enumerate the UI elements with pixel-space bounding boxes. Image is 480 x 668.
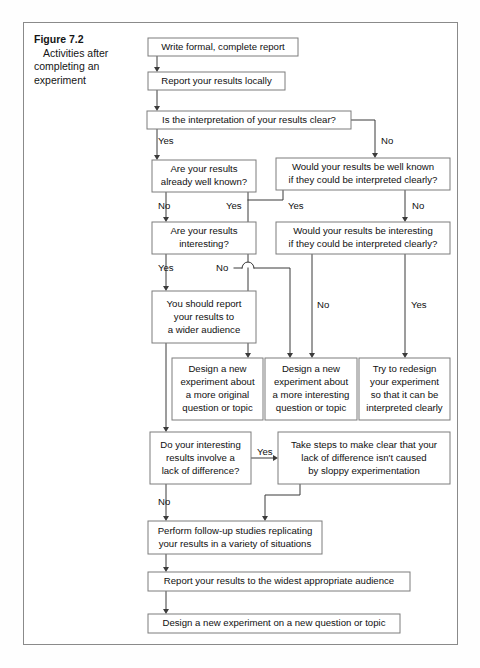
flow-edge-label: Yes — [226, 200, 242, 211]
arrow-head-icon — [163, 609, 169, 614]
arrow-head-icon — [154, 155, 160, 160]
flow-node-label: Design a new — [282, 363, 340, 374]
arrow-head-icon — [309, 353, 315, 358]
arrow-head-icon — [163, 427, 169, 432]
flow-node-label: lack of difference isn't caused — [301, 452, 426, 463]
arrow-head-icon — [163, 516, 169, 521]
arrow-head-icon — [287, 353, 293, 358]
flow-connector — [351, 120, 375, 154]
arrow-head-icon — [273, 455, 278, 461]
flow-edge-label: No — [412, 200, 424, 211]
flow-edge-label: Yes — [158, 135, 174, 146]
flow-node-label: question or topic — [182, 402, 253, 413]
flow-node[interactable]: Design a newexperiment abouta more inter… — [265, 358, 357, 420]
flow-edge-label: Yes — [288, 200, 304, 211]
flow-node[interactable]: Report your results to the widest approp… — [148, 572, 410, 591]
flow-edge-label: No — [317, 299, 329, 310]
flow-node[interactable]: Are your resultsalready well known? — [152, 160, 256, 192]
flow-node-label: so that it can be — [371, 389, 439, 400]
flowchart-canvas: Write formal, complete reportReport your… — [0, 0, 480, 668]
flow-connector — [242, 262, 254, 268]
flow-node[interactable]: Take steps to make clear that yourlack o… — [278, 432, 450, 484]
flow-node-label: already well known? — [161, 176, 247, 187]
arrow-head-icon — [154, 67, 160, 72]
flow-node[interactable]: Would your results be well knownif they … — [276, 158, 450, 190]
flow-node-label: your results to — [174, 311, 234, 322]
flow-node-label: Are your results — [170, 163, 237, 174]
flow-node-label: Is the interpretation of your results cl… — [162, 114, 336, 125]
flow-node-label: interesting? — [179, 238, 229, 249]
flow-edge-label: No — [216, 262, 228, 273]
flow-node-label: Are your results — [170, 225, 237, 236]
flow-node-label: experiment about — [274, 376, 348, 387]
flow-node-label: Would your results be interesting — [293, 225, 433, 236]
flow-node-label: Do your interesting — [160, 439, 241, 450]
arrow-head-icon — [154, 106, 160, 111]
flow-node[interactable]: Would your results be interestingif they… — [276, 222, 450, 254]
flow-node[interactable]: Write formal, complete report — [148, 38, 298, 56]
flow-edge-label: Yes — [257, 446, 273, 457]
flow-edge-label: No — [158, 496, 170, 507]
arrow-head-icon — [163, 217, 169, 222]
flow-node-label: Would your results be well known — [292, 161, 434, 172]
arrow-head-icon — [372, 153, 378, 158]
arrow-head-icon — [262, 516, 268, 521]
flow-node-label: experiment about — [180, 376, 254, 387]
flow-node[interactable]: Is the interpretation of your results cl… — [147, 111, 351, 129]
arrow-head-icon — [402, 217, 408, 222]
flow-node[interactable]: Perform follow-up studies replicatingyou… — [148, 521, 322, 554]
flow-node-label: results involve a — [166, 452, 235, 463]
arrow-head-icon — [402, 353, 408, 358]
arrow-head-icon — [245, 353, 251, 358]
flow-node-label: Try to redesign — [373, 363, 437, 374]
flow-node[interactable]: Design a new experiment on a new questio… — [148, 614, 400, 633]
arrow-head-icon — [163, 567, 169, 572]
flow-node[interactable]: Are your resultsinteresting? — [152, 222, 256, 254]
flow-node-label: a wider audience — [168, 324, 241, 335]
flow-node-label: You should report — [167, 298, 242, 309]
arrow-head-icon — [163, 286, 169, 291]
flow-node[interactable]: Try to redesignyour experimentso that it… — [359, 358, 450, 420]
flow-node-label: Report your results locally — [161, 75, 272, 86]
flow-node-label: if they could be interpreted clearly? — [289, 174, 438, 185]
flow-edge-label: No — [158, 200, 170, 211]
flow-edge-label: Yes — [158, 262, 174, 273]
flow-node-label: a more original — [186, 389, 249, 400]
flow-edge-label: Yes — [411, 299, 427, 310]
flow-edge-label: No — [381, 135, 393, 146]
flow-node-label: Take steps to make clear that your — [291, 439, 438, 450]
flow-node-label: your results in a variety of situations — [159, 538, 312, 549]
flow-node-label: question or topic — [276, 402, 347, 413]
flow-node-label: lack of difference? — [162, 465, 240, 476]
flow-node[interactable]: Report your results locally — [148, 72, 285, 90]
flow-node-label: Report your results to the widest approp… — [164, 575, 394, 586]
flow-node-label: your experiment — [370, 376, 439, 387]
flow-connector — [254, 268, 290, 354]
flow-node-label: Design a new — [188, 363, 246, 374]
flow-node-label: Design a new experiment on a new questio… — [163, 617, 386, 628]
flow-node-label: Write formal, complete report — [161, 41, 285, 52]
flow-node[interactable]: You should reportyour results toa wider … — [152, 291, 256, 343]
flow-node-label: a more interesting — [273, 389, 350, 400]
figure-page: Figure 7.2 Activities after completing a… — [0, 0, 480, 668]
flow-node-label: if they could be interpreted clearly? — [289, 238, 438, 249]
flow-node-label: interpreted clearly — [366, 402, 442, 413]
flow-node-label: Perform follow-up studies replicating — [158, 525, 313, 536]
flow-connector — [265, 484, 300, 517]
flow-node[interactable]: Do your interestingresults involve alack… — [150, 432, 251, 484]
flow-node-label: by sloppy experimentation — [308, 465, 419, 476]
flow-node[interactable]: Design a newexperiment abouta more origi… — [172, 358, 263, 420]
